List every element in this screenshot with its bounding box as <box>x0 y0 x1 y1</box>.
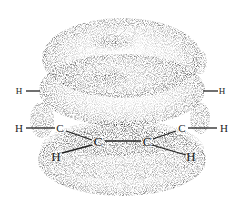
atom-h-mid-left: H <box>15 122 23 134</box>
atom-h-top-left: H <box>16 86 23 96</box>
atom-c-center-right: C <box>143 134 152 149</box>
benzene-orbital-figure: H H H C C H C C H H <box>0 0 239 207</box>
atom-h-bottom-right: H <box>186 149 195 164</box>
atom-h-bottom-left: H <box>51 149 60 164</box>
atom-h-top-right: H <box>219 86 226 96</box>
atom-c-left: C <box>56 122 63 134</box>
atom-c-center-left: C <box>94 134 103 149</box>
atom-h-mid-right: H <box>220 122 228 134</box>
upper-pi-cloud <box>30 18 210 138</box>
atom-c-right: C <box>178 122 185 134</box>
